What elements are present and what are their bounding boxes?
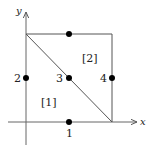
edge-4-label: 4 (100, 72, 107, 85)
edge-1-point (66, 119, 72, 125)
diagram-canvas: x y 1 2 3 4 [1] [2] (0, 0, 154, 151)
edge-3-point (66, 75, 72, 81)
region-2-label: [2] (82, 52, 98, 65)
edge-4-point (109, 75, 115, 81)
x-axis-label: x (140, 116, 146, 127)
edge-3-label: 3 (56, 72, 63, 85)
top-midpoint (66, 31, 72, 37)
edge-2-point (23, 75, 29, 81)
edge-1-label: 1 (66, 127, 73, 140)
region-1-label: [1] (41, 96, 57, 109)
edge-2-label: 2 (14, 72, 21, 85)
y-axis-label: y (15, 5, 22, 16)
